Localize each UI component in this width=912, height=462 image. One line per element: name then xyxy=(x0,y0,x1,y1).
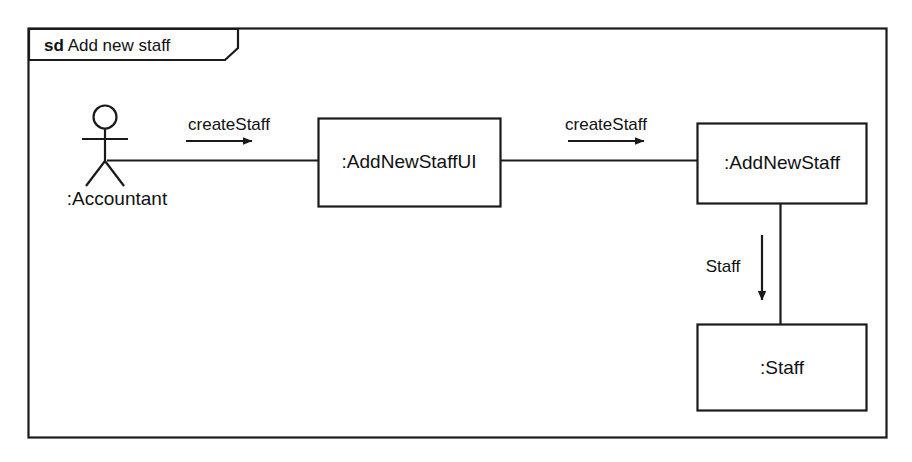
message-label-1: createStaff xyxy=(188,115,270,134)
frame-label: sd Add new staff xyxy=(44,36,171,55)
interaction-frame xyxy=(29,29,887,438)
actor-accountant xyxy=(82,106,128,187)
object-label-staff: :Staff xyxy=(760,357,805,378)
message-label-2: createStaff xyxy=(565,115,647,134)
message-label-3: Staff xyxy=(706,257,741,276)
actor-label: :Accountant xyxy=(67,188,168,209)
object-label-add-new-staff-ui: :AddNewStaffUI xyxy=(342,151,477,172)
object-label-add-new-staff: :AddNewStaff xyxy=(724,152,841,173)
diagram-canvas: sd Add new staff :Accountant createStaff… xyxy=(0,0,912,462)
frame-label-name: Add new staff xyxy=(68,36,171,55)
uml-communication-diagram: sd Add new staff :Accountant createStaff… xyxy=(0,0,912,462)
stick-figure-actor-icon xyxy=(82,106,128,187)
frame-label-kind: sd xyxy=(44,36,64,55)
